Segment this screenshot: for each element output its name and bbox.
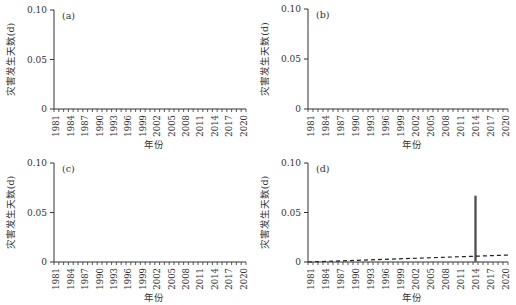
x-tick-label: 1990 — [351, 268, 361, 290]
x-tick-label: 1984 — [66, 115, 76, 137]
y-tick-label: 0 — [295, 104, 301, 114]
panel-label: (b) — [316, 9, 330, 20]
x-tick-label: 1996 — [123, 115, 133, 137]
x-tick-label: 1984 — [321, 115, 331, 137]
y-tick-label: 0.05 — [27, 208, 47, 218]
x-tick-label: 1996 — [381, 115, 391, 137]
x-tick-label: 2008 — [441, 268, 451, 290]
x-tick-label: 2014 — [210, 268, 220, 290]
x-tick-label: 1996 — [123, 268, 133, 290]
x-axis-title: 年份 — [402, 139, 422, 150]
chart-panel-a: 00.050.101981198419871990199319961999200… — [5, 5, 249, 150]
y-axis-title: 灾害发生天数(d) — [259, 176, 270, 250]
x-tick-label: 1996 — [381, 268, 391, 290]
x-tick-label: 1999 — [138, 268, 148, 290]
x-axis-title: 年份 — [144, 292, 164, 303]
trend-line — [308, 255, 508, 262]
y-tick-label: 0.05 — [27, 55, 47, 65]
x-tick-label: 2002 — [152, 115, 162, 137]
y-tick-label: 0 — [295, 257, 301, 267]
x-tick-label: 2008 — [181, 268, 191, 290]
x-tick-label: 1987 — [80, 268, 90, 290]
y-tick-label: 0.05 — [281, 54, 301, 64]
x-axis-title: 年份 — [402, 292, 422, 303]
x-tick-label: 1984 — [321, 268, 331, 290]
x-tick-label: 2017 — [224, 268, 234, 290]
x-tick-label: 1981 — [306, 268, 316, 290]
x-tick-label: 1984 — [66, 268, 76, 290]
x-tick-label: 1981 — [51, 115, 61, 137]
x-tick-label: 1990 — [95, 115, 105, 137]
x-tick-label: 2014 — [210, 115, 220, 137]
y-tick-label: 0 — [41, 104, 47, 114]
x-tick-label: 2011 — [456, 115, 466, 137]
x-tick-label: 2011 — [195, 268, 205, 290]
x-tick-label: 2011 — [195, 115, 205, 137]
x-tick-label: 1993 — [366, 268, 376, 290]
x-tick-label: 2005 — [167, 268, 177, 290]
y-tick-label: 0.10 — [281, 158, 301, 168]
x-tick-label: 2011 — [456, 268, 466, 290]
chart-panel-d: 00.050.101981198419871990199319961999200… — [259, 158, 511, 303]
y-tick-label: 0.10 — [27, 5, 47, 15]
y-axis-title: 灾害发生天数(d) — [5, 176, 16, 250]
x-tick-label: 1981 — [306, 115, 316, 137]
y-tick-label: 0.10 — [27, 158, 47, 168]
y-axis-title: 灾害发生天数(d) — [259, 22, 270, 96]
x-axis-title: 年份 — [144, 139, 164, 150]
panel-label: (d) — [316, 163, 330, 174]
x-tick-label: 2020 — [501, 115, 511, 137]
x-tick-label: 1987 — [336, 268, 346, 290]
x-tick-label: 1990 — [95, 268, 105, 290]
x-tick-label: 2005 — [426, 268, 436, 290]
x-tick-label: 2005 — [167, 115, 177, 137]
y-tick-label: 0 — [41, 257, 47, 267]
x-tick-label: 2020 — [239, 268, 249, 290]
x-tick-label: 2020 — [501, 268, 511, 290]
x-tick-label: 2014 — [471, 115, 481, 137]
chart-panel-c: 00.050.101981198419871990199319961999200… — [5, 158, 249, 303]
x-tick-label: 2014 — [471, 268, 481, 290]
x-tick-label: 1987 — [80, 115, 90, 137]
x-tick-label: 2002 — [411, 115, 421, 137]
y-tick-label: 0.10 — [281, 4, 301, 14]
x-tick-label: 1981 — [51, 268, 61, 290]
chart-panel-b: 00.050.101981198419871990199319961999200… — [259, 4, 511, 150]
panel-label: (c) — [62, 163, 75, 174]
x-tick-label: 1999 — [138, 115, 148, 137]
x-tick-label: 2002 — [411, 268, 421, 290]
x-tick-label: 2017 — [486, 115, 496, 137]
x-tick-label: 1993 — [109, 115, 119, 137]
x-tick-label: 2002 — [152, 268, 162, 290]
chart-figure: 00.050.101981198419871990199319961999200… — [0, 0, 516, 305]
x-tick-label: 2020 — [239, 115, 249, 137]
x-tick-label: 2008 — [181, 115, 191, 137]
x-tick-label: 1993 — [109, 268, 119, 290]
x-tick-label: 2017 — [486, 268, 496, 290]
x-tick-label: 2017 — [224, 115, 234, 137]
x-tick-label: 1993 — [366, 115, 376, 137]
x-tick-label: 1987 — [336, 115, 346, 137]
x-tick-label: 2005 — [426, 115, 436, 137]
y-axis-title: 灾害发生天数(d) — [5, 23, 16, 97]
x-tick-label: 1990 — [351, 115, 361, 137]
x-tick-label: 1999 — [396, 268, 406, 290]
panel-label: (a) — [62, 10, 75, 21]
y-tick-label: 0.05 — [281, 208, 301, 218]
bar-2014 — [474, 196, 476, 262]
x-tick-label: 1999 — [396, 115, 406, 137]
x-tick-label: 2008 — [441, 115, 451, 137]
